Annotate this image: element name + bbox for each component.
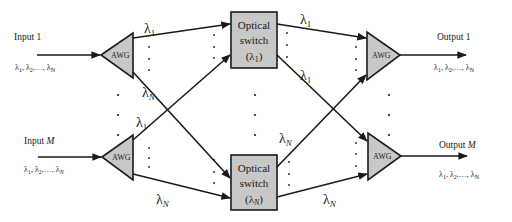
label-lambda-1-b: λ1 xyxy=(136,115,147,132)
optical-switch-lambda-n: Optical switch (λN) xyxy=(231,155,277,210)
input-m-title: Input M xyxy=(24,136,55,146)
awg-label: AWG xyxy=(111,51,130,60)
switch-label-line3: (λ1) xyxy=(246,50,263,64)
output-1-wavelengths: λ1, λ2,…, λN xyxy=(434,63,475,73)
label-lambda-1-d: λ1 xyxy=(300,68,311,85)
fiber-switch1-to-awg1 xyxy=(277,24,366,38)
awg-demux-m: AWG xyxy=(102,135,133,180)
fiber-switchN-to-awg1 xyxy=(277,75,366,167)
wdm-switch-architecture-diagram: Input 1 λ1, λ2,…, λN Input M λ1, λ2,…, λ… xyxy=(0,0,512,222)
input-m-wavelengths: λ1, λ2,…, λN xyxy=(24,165,65,175)
input-m-port: Input M λ1, λ2,…, λN xyxy=(24,136,101,175)
awg-label: AWG xyxy=(373,152,392,161)
switch-label-line2: switch xyxy=(240,34,269,46)
switch-label-line1: Optical xyxy=(238,19,270,31)
label-lambda-n-c: λN xyxy=(279,131,293,148)
fiber-switch1-to-awgM xyxy=(277,55,367,141)
awg-demux-1: AWG xyxy=(101,33,133,78)
label-lambda-n-a: λN xyxy=(142,85,156,102)
awg-mux-m: AWG xyxy=(368,133,401,180)
input-1-title: Input 1 xyxy=(14,32,41,42)
output-m-title: Output M xyxy=(439,140,477,150)
awg-mux-1: AWG xyxy=(367,32,400,80)
awg-label: AWG xyxy=(372,51,391,60)
awg-label: AWG xyxy=(112,153,131,162)
label-lambda-1-a: λ1 xyxy=(144,21,155,38)
label-lambda-n-b: λN xyxy=(156,192,170,209)
label-lambda-1-c: λ1 xyxy=(300,12,311,29)
fiber-switchN-to-awgM xyxy=(277,174,367,197)
output-1-port: Output 1 λ1, λ2,…, λN xyxy=(400,32,475,73)
input-1-wavelengths: λ1, λ2,…, λN xyxy=(15,63,56,73)
output-m-port: Output M λ1, λ2,…, λN xyxy=(401,140,480,180)
label-lambda-n-d: λN xyxy=(323,192,337,209)
output-1-title: Output 1 xyxy=(437,32,471,42)
fiber-awgM-to-switchN xyxy=(133,174,230,198)
optical-switch-lambda-1: Optical switch (λ1) xyxy=(231,12,277,68)
input-1-port: Input 1 λ1, λ2,…, λN xyxy=(14,32,100,73)
switch-label-line1: Optical xyxy=(238,162,270,174)
output-m-wavelengths: λ1, λ2,…, λN xyxy=(439,170,480,180)
switch-label-line2: switch xyxy=(240,177,269,189)
